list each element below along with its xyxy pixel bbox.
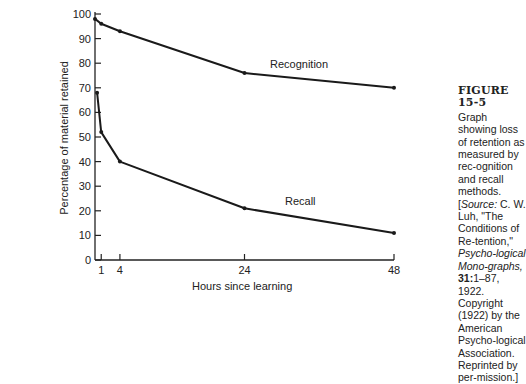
y-tick-label: 20 (79, 205, 91, 217)
y-tick-label: 90 (79, 33, 91, 45)
y-tick-label: 80 (79, 57, 91, 69)
data-point (392, 86, 396, 90)
y-tick-label: 40 (79, 156, 91, 168)
data-point (243, 71, 247, 75)
retention-chart: 0102030405060708090100 142448 Recognitio… (0, 0, 455, 312)
y-tick-label: 70 (79, 82, 91, 94)
y-tick-label: 50 (79, 131, 91, 143)
x-tick-label: 48 (388, 264, 400, 276)
y-axis-title: Percentage of material retained (58, 61, 70, 214)
data-point (99, 22, 103, 26)
y-tick-label: 10 (79, 229, 91, 241)
data-point (243, 206, 247, 210)
y-axis-ticks: 0102030405060708090100 (73, 8, 101, 266)
x-axis-ticks: 142448 (98, 254, 400, 276)
recall-label: Recall (285, 195, 316, 207)
y-tick-label: 100 (73, 8, 91, 20)
data-point (118, 160, 122, 164)
axes (95, 12, 394, 260)
data-point (118, 29, 122, 33)
x-axis-title: Hours since learning (192, 280, 292, 292)
recognition-label: Recognition (270, 58, 328, 70)
data-point (93, 17, 97, 21)
x-tick-label: 4 (117, 264, 123, 276)
data-point (392, 231, 396, 235)
recall-line (97, 93, 394, 233)
figure-caption: FIGURE 15-5Graph showing loss of retenti… (458, 85, 526, 384)
x-tick-label: 24 (238, 264, 250, 276)
x-tick-label: 1 (98, 264, 104, 276)
data-point (95, 91, 99, 95)
y-tick-label: 30 (79, 180, 91, 192)
y-tick-label: 0 (85, 254, 91, 266)
recognition-line (95, 19, 394, 88)
y-tick-label: 60 (79, 106, 91, 118)
figure-number: FIGURE 15-5 (458, 85, 526, 110)
data-point (99, 130, 103, 134)
data-series (93, 17, 396, 235)
